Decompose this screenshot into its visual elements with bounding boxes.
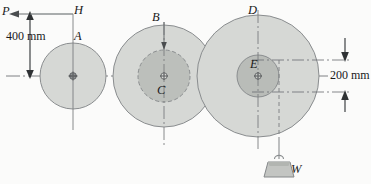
label-h: H: [74, 4, 83, 17]
label-c: C: [157, 84, 165, 97]
dimension-label-200mm: 200 mm: [330, 69, 370, 81]
label-b: B: [152, 11, 160, 24]
label-w: W: [291, 163, 301, 176]
dim-200-lower-arrowhead: [341, 90, 349, 100]
dim-400-arrowhead-bottom: [26, 70, 34, 79]
label-p: P: [2, 5, 10, 18]
label-a: A: [74, 30, 82, 43]
label-e: E: [250, 58, 258, 71]
dim-200-upper-arrowhead: [341, 52, 349, 62]
diagram-svg: [0, 0, 371, 184]
label-d: D: [248, 4, 257, 17]
dimension-label-400mm: 400 mm: [6, 30, 46, 42]
figure-canvas: P H A B C D E W 400 mm 200 mm: [0, 0, 371, 184]
force-p-arrowhead: [9, 11, 19, 18]
dim-400-arrowhead-top: [26, 11, 34, 20]
